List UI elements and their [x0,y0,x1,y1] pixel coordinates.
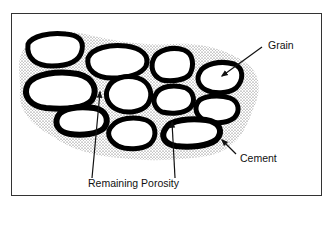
grain-9 [57,107,107,134]
grain-2 [88,46,147,79]
grain-5 [26,72,95,108]
grain-label: Grain [268,40,294,51]
remaining-porosity-label: Remaining Porosity [88,178,179,189]
grain-7 [154,86,193,113]
grain-1 [28,33,83,66]
grain-3 [152,48,192,80]
cement-label: Cement [240,153,277,164]
grain-6 [106,76,150,112]
grain-10 [109,118,155,149]
